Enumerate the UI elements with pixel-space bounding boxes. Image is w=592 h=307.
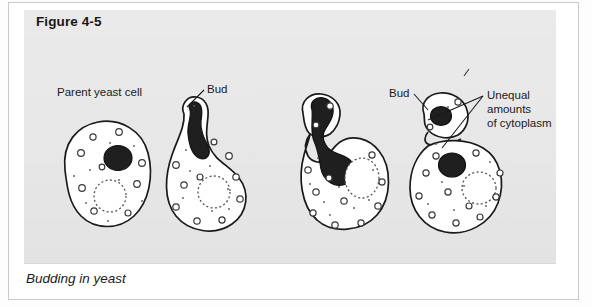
yeast-cell-stage-3	[301, 94, 388, 229]
vacuole-stage-1	[94, 180, 126, 212]
stray-tick-mark	[464, 69, 469, 76]
label-unequal: Unequal	[487, 89, 530, 103]
yeast-cell-stage-2	[166, 97, 245, 231]
label-bud-stage-2: Bud	[207, 83, 227, 97]
vacuole-stage-3	[345, 158, 379, 198]
label-bud-stage-4: Bud	[389, 87, 409, 101]
vacuole-stage-2	[198, 176, 230, 208]
label-parent-yeast-cell: Parent yeast cell	[57, 86, 142, 100]
figure-root: Figure 4-5 Budding in yeast	[0, 0, 592, 307]
parent-nucleus-stage-4	[439, 153, 466, 177]
label-amounts: amounts	[487, 103, 531, 117]
yeast-cell-stage-1	[65, 121, 151, 226]
budding-in-yeast-illustration	[24, 10, 556, 263]
vacuole-stage-4	[462, 172, 496, 204]
label-of-cytoplasm: of cytoplasm	[487, 117, 552, 131]
figure-caption: Budding in yeast	[26, 271, 126, 286]
nucleus-stage-1	[104, 146, 132, 171]
daughter-nucleus-stage-4	[431, 107, 452, 126]
caption-divider	[24, 263, 556, 264]
